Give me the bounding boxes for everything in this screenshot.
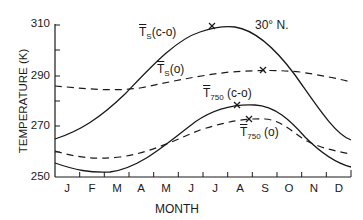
month-label: F — [82, 182, 102, 194]
month-label: A — [230, 182, 250, 194]
month-label: D — [329, 182, 349, 194]
ytick-310: 310 — [20, 17, 50, 29]
month-label: M — [156, 182, 176, 194]
label-t750-co: T750 (c-o) — [203, 86, 252, 102]
max-markers — [209, 23, 266, 122]
month-label: O — [279, 182, 299, 194]
month-label: A — [131, 182, 151, 194]
month-label: J — [181, 182, 201, 194]
series-t750-co — [55, 105, 351, 172]
series-ts-co — [55, 27, 351, 140]
month-label: N — [304, 182, 324, 194]
month-label: M — [107, 182, 127, 194]
latitude-label: 30° N. — [255, 18, 288, 32]
x-axis-label: MONTH — [155, 202, 199, 216]
ytick-250: 250 — [20, 170, 50, 182]
month-label: J — [57, 182, 77, 194]
label-t750-o: T750 (o) — [240, 125, 279, 141]
label-ts-co: TS(c-o) — [139, 25, 176, 41]
month-label: J — [205, 182, 225, 194]
label-ts-o: TS(o) — [157, 62, 184, 78]
y-axis-label: TEMPERATURE (K) — [17, 46, 29, 156]
month-label: S — [255, 182, 275, 194]
chart: 310 290 270 250 TEMPERATURE (K) J F M A … — [0, 0, 363, 220]
